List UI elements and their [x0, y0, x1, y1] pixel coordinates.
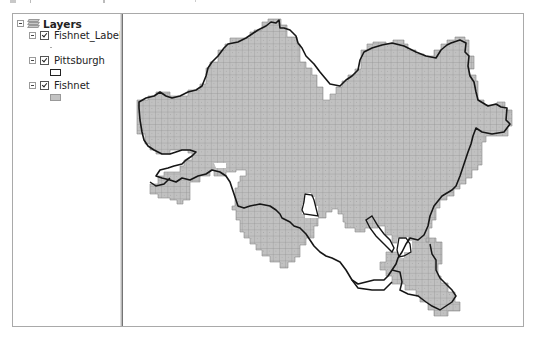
collapse-icon[interactable]: [29, 32, 36, 39]
toc-layer-pittsburgh[interactable]: Pittsburgh: [29, 54, 105, 67]
polygon-outline-symbol-icon: [50, 69, 61, 76]
top-partial-toolbar: [0, 0, 537, 6]
layers-icon: [28, 19, 39, 28]
toolbar-fragment: [10, 0, 16, 3]
map-view[interactable]: [123, 14, 523, 326]
toolbar-fragment: [30, 0, 31, 3]
toc-root-label: Layers: [43, 18, 82, 30]
arcmap-window: Layers Fishnet_Label Pittsburgh Fishnet: [12, 13, 524, 327]
collapse-icon[interactable]: [17, 20, 24, 27]
fishnet-layer: [137, 19, 512, 316]
layer-visibility-checkbox[interactable]: [40, 31, 49, 40]
polygon-fill-symbol-icon: [50, 94, 61, 101]
toolbar-fragment: [103, 0, 105, 3]
layer-name: Fishnet_Label: [54, 30, 122, 41]
toolbar-fragment: [195, 0, 196, 2]
table-of-contents: Layers Fishnet_Label Pittsburgh Fishnet: [13, 14, 120, 326]
layer-name: Fishnet: [54, 80, 90, 91]
collapse-icon[interactable]: [29, 82, 36, 89]
layer-visibility-checkbox[interactable]: [40, 56, 49, 65]
layer-visibility-checkbox[interactable]: [40, 81, 49, 90]
point-symbol-icon: [50, 47, 52, 48]
map-canvas[interactable]: [123, 14, 523, 326]
collapse-icon[interactable]: [29, 57, 36, 64]
layer-name: Pittsburgh: [54, 55, 105, 66]
toc-layer-fishnet[interactable]: Fishnet: [29, 79, 90, 92]
toc-layer-fishnet-label[interactable]: Fishnet_Label: [29, 29, 122, 42]
